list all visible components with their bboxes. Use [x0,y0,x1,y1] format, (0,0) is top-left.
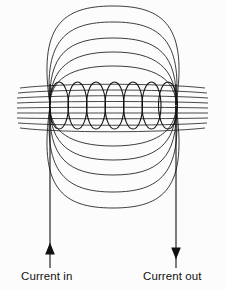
diagram-canvas [0,0,225,290]
diagram-background [0,0,225,290]
solenoid-field-diagram: Current in Current out [0,0,225,290]
diagram-labels: Current in Current out [0,268,225,290]
current-out-label: Current out [143,270,202,282]
current-in-label: Current in [21,270,73,282]
